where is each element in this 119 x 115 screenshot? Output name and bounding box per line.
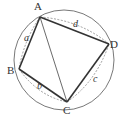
diagonal-AC	[40, 17, 67, 102]
cyclic-quadrilateral-diagram: A B C D a b c d	[0, 0, 119, 115]
side-AB	[19, 17, 40, 69]
side-label-a: a	[24, 32, 29, 43]
vertex-label-D: D	[110, 38, 118, 50]
side-label-c: c	[93, 73, 98, 84]
vertex-label-B: B	[7, 64, 14, 76]
vertex-label-C: C	[63, 104, 70, 115]
side-BC	[19, 69, 67, 102]
side-label-d: d	[73, 18, 79, 29]
circumcircle	[14, 10, 114, 110]
side-CD	[67, 44, 109, 102]
vertex-label-A: A	[34, 0, 42, 12]
side-label-b: b	[37, 80, 42, 91]
